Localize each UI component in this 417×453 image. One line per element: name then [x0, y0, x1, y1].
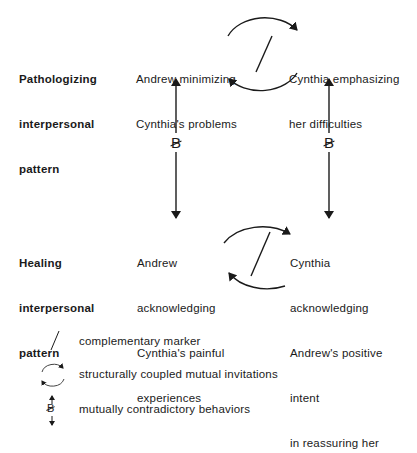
cynthia-emphasizing-node: Cynthia emphasizing her difficulties [289, 42, 400, 147]
node-line: Andrew minimizing [136, 72, 237, 87]
right-contradiction-symbol: B [324, 134, 334, 151]
legend-contradictory-behaviors: mutually contradictory behaviors [79, 402, 250, 417]
cynthia-acknowledging-node: Cynthia acknowledging Andrew's positive … [290, 226, 383, 453]
legend-coupled-invitations: structurally coupled mutual invitations [79, 367, 278, 382]
label-line: interpersonal [19, 117, 97, 132]
node-line: Andrew's positive [290, 346, 383, 361]
node-line: acknowledging [290, 301, 383, 316]
bottom-cycle-arrows-icon [224, 227, 290, 289]
andrew-acknowledging-node: Andrew acknowledging Cynthia's painful e… [137, 226, 224, 421]
node-line: Cynthia emphasizing [289, 72, 400, 87]
node-line: her difficulties [289, 117, 400, 132]
top-cycle-arrows-icon [228, 18, 297, 91]
left-contradiction-symbol: B [171, 134, 181, 151]
contradiction-b-icon: B [47, 402, 54, 414]
node-line: acknowledging [137, 301, 224, 316]
node-line: intent [290, 391, 383, 406]
andrew-minimizing-node: Andrew minimizing Cynthia's problems [136, 42, 237, 147]
node-line: Cynthia [290, 256, 383, 271]
node-line: Cynthia's problems [136, 117, 237, 132]
legend-complementary-marker: complementary marker [79, 334, 201, 349]
label-line: Pathologizing [19, 72, 97, 87]
node-line: in reassuring her [290, 436, 383, 451]
healing-pattern-label: Healing interpersonal pattern [19, 226, 94, 376]
label-line: pattern [19, 162, 97, 177]
pathologizing-pattern-label: Pathologizing interpersonal pattern [19, 42, 97, 192]
label-line: Healing [19, 256, 94, 271]
node-line: Andrew [137, 256, 224, 271]
label-line: interpersonal [19, 301, 94, 316]
